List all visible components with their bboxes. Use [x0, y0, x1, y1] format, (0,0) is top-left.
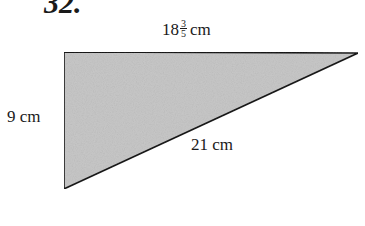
triangle [64, 52, 358, 189]
top-side-label: 1835cm [162, 20, 211, 41]
top-unit: cm [190, 20, 211, 39]
top-whole: 18 [162, 20, 179, 39]
fraction-denominator: 5 [180, 29, 187, 38]
left-side-label: 9 cm [7, 107, 41, 127]
hypotenuse-label: 21 cm [191, 135, 233, 155]
top-fraction: 35 [180, 19, 187, 38]
